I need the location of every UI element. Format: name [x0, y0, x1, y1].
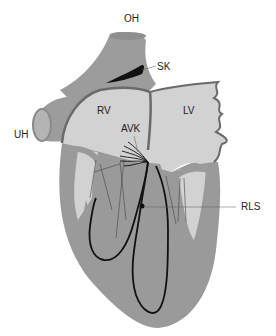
label-uh: UH: [14, 130, 28, 140]
label-sk: SK: [157, 62, 170, 72]
heart-illustration: [0, 0, 276, 336]
label-avk: AVK: [121, 124, 140, 134]
label-rv: RV: [97, 106, 111, 116]
label-oh: OH: [124, 14, 139, 24]
superior-vena-cava-opening: [110, 32, 146, 40]
his-bundle-marker: [140, 204, 145, 209]
heart-diagram: OH SK RV LV AVK UH RLS: [0, 0, 276, 336]
label-lv: LV: [183, 106, 195, 116]
label-rls: RLS: [241, 202, 260, 212]
inferior-vena-cava-opening: [33, 109, 51, 141]
